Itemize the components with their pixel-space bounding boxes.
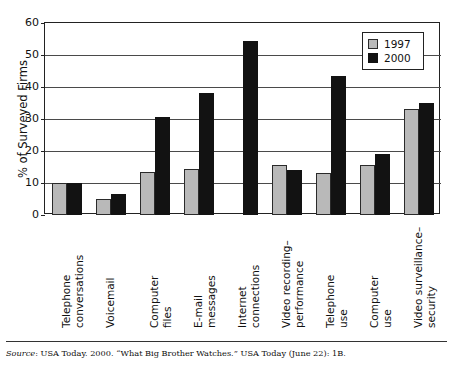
chart-legend: 1997 2000 [362, 32, 424, 70]
bar-1997 [96, 199, 111, 215]
bar-group [177, 23, 221, 215]
category-label-line: Voicemail [104, 216, 117, 328]
bar-2000 [243, 41, 258, 215]
category-label-line: Computer [148, 216, 161, 328]
legend-swatch-1997-icon [368, 39, 378, 49]
bar-2000 [155, 117, 170, 215]
category-label-line: files [161, 216, 174, 328]
category-label-line: messages [205, 216, 218, 328]
category-label-line: use [381, 216, 394, 328]
bar-2000 [287, 170, 302, 215]
y-axis-tick-label: 50 [9, 48, 39, 61]
bar-group [133, 23, 177, 215]
bar-1997 [404, 109, 419, 215]
category-label-line: connections [249, 216, 262, 328]
y-axis-tick-label: 60 [9, 16, 39, 29]
category-label-line: Video recording– [280, 216, 293, 328]
category-labels: TelephoneconversationsVoicemailComputerf… [44, 216, 440, 334]
category-label-line: Video surveillance– [412, 216, 425, 328]
category-label-line: performance [293, 216, 306, 328]
source-text: : USA Today. 2000. “What Big Brother Wat… [35, 348, 346, 358]
legend-entry-1997: 1997 [368, 37, 418, 51]
category-label-line: conversations [73, 216, 86, 328]
category-label-line: Telephone [324, 216, 337, 328]
bar-1997 [140, 172, 155, 215]
bar-group [309, 23, 353, 215]
legend-label-1997: 1997 [384, 38, 411, 50]
bar-chart-figure: % of Surveyed Firms 0102030405060 Teleph… [0, 0, 453, 365]
category-label-line: Computer [368, 216, 381, 328]
bar-2000 [331, 76, 346, 215]
category-label-line: use [337, 216, 350, 328]
y-axis-tick-label: 40 [9, 80, 39, 93]
y-axis-tick-label: 10 [9, 176, 39, 189]
legend-label-2000: 2000 [384, 52, 411, 64]
source-note: Source: USA Today. 2000. “What Big Broth… [6, 348, 346, 358]
bar-2000 [419, 103, 434, 215]
source-lead: Source [6, 348, 35, 358]
bar-2000 [111, 194, 126, 215]
category-label-line: security [425, 216, 438, 328]
y-axis-tick-label: 30 [9, 112, 39, 125]
bar-group [221, 23, 265, 215]
bar-2000 [375, 154, 390, 215]
legend-entry-2000: 2000 [368, 51, 418, 65]
source-divider [6, 341, 447, 342]
y-axis-tick-label: 0 [9, 208, 39, 221]
bar-2000 [67, 183, 82, 215]
bar-1997 [272, 165, 287, 215]
bar-group [89, 23, 133, 215]
category-label-line: Telephone [60, 216, 73, 328]
y-axis-tick-label: 20 [9, 144, 39, 157]
category-label-line: Internet [236, 216, 249, 328]
legend-swatch-2000-icon [368, 53, 378, 63]
bar-2000 [199, 93, 214, 215]
bar-group [265, 23, 309, 215]
category-label-line: E-mail [192, 216, 205, 328]
bar-1997 [52, 183, 67, 215]
bar-1997 [316, 173, 331, 215]
category-label: Video surveillance–security [412, 216, 453, 328]
bar-1997 [184, 169, 199, 215]
bar-1997 [360, 165, 375, 215]
bar-group [45, 23, 89, 215]
